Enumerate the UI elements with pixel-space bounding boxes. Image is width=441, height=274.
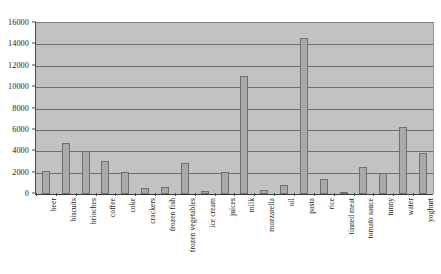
bar-slot [334,23,354,194]
bar [121,172,129,194]
x-axis-tick-mark [234,193,235,196]
x-axis-label-slot: frozen fish [155,198,175,274]
bar-slot [274,23,294,194]
y-axis-tick-label: 4000 [12,146,29,155]
y-axis-tick-label: 14000 [8,39,29,48]
y-axis: 0200040006000800010000120001400016000 [0,0,36,274]
bar-slot [393,23,413,194]
bar [419,153,427,194]
x-axis-label-slot: pasta [294,198,314,274]
x-axis-tick-mark [314,193,315,196]
plot-area [36,22,434,194]
x-axis-tick-mark [115,193,116,196]
x-axis-tick-slot [373,193,393,197]
x-axis-tick-mark [135,193,136,196]
y-axis-tick-label: 16000 [8,18,29,27]
bar-slot [215,23,235,194]
x-axis-label-slot: milk [234,198,254,274]
x-axis-tick-mark [354,193,355,196]
y-axis-tick-label: 6000 [12,124,29,133]
x-axis-tick-slot [314,193,334,197]
bar [42,171,50,195]
x-axis-label-slot: juices [215,198,235,274]
bar-slot [314,23,334,194]
x-axis-label-slot: water [393,198,413,274]
x-axis-label-slot: tinned meat [334,198,354,274]
x-axis-tick-mark [175,193,176,196]
x-axis-tick-slot [115,193,135,197]
x-axis-tick-mark [195,193,196,196]
bar-slot [56,23,76,194]
x-axis-tick-mark [413,193,414,196]
x-axis-tick-slot [96,193,116,197]
x-axis-label-slot: rice [314,198,334,274]
x-axis-tick-slot [175,193,195,197]
x-axis-label-slot: frozen vegetables [175,198,195,274]
x-axis-label-slot: ice cream [195,198,215,274]
x-axis-tick-slot [36,193,56,197]
x-axis-tick-mark [76,193,77,196]
bar [320,179,328,194]
y-axis-tick-label: 8000 [12,103,29,112]
x-axis-tick-slot [155,193,175,197]
x-axis-tick-mark [96,193,97,196]
bar [181,163,189,194]
x-axis-tick-mark [155,193,156,196]
x-axis-label-slot: coke [115,198,135,274]
bar-slot [234,23,254,194]
bar [399,127,407,194]
y-axis-tick-label: 0 [25,189,29,198]
x-axis-tick-mark [393,193,394,196]
bar-slot [175,23,195,194]
bar-slot [254,23,274,194]
bar-chart-figure: 0200040006000800010000120001400016000 be… [0,0,441,274]
x-axis-label-slot: brioches [76,198,96,274]
bar-slot [354,23,374,194]
x-axis-tick-slot [413,193,433,197]
x-axis-label-slot: biscuits [56,198,76,274]
x-axis-tick-slot [76,193,96,197]
y-axis-tick-label: 12000 [8,60,29,69]
x-axis-tick-mark [373,193,374,196]
bar-slot [135,23,155,194]
x-axis-tick-mark [56,193,57,196]
bar-slot [373,23,393,194]
bar [300,38,308,194]
bar [82,151,90,194]
bar-slot [76,23,96,194]
x-axis-label-slot: yoghurt [413,198,433,274]
x-axis-tick-slot [215,193,235,197]
x-axis-labels: beerbiscuitsbriochescoffeecokecrackersfr… [36,198,433,274]
x-axis-tick-label: yoghurt [426,198,435,222]
x-axis-tick-slot [135,193,155,197]
x-axis-tick-slot [56,193,76,197]
bar [379,173,387,194]
x-axis-tick-slot [393,193,413,197]
x-axis-tick-slot [274,193,294,197]
y-axis-line [35,22,36,195]
bar-slot [195,23,215,194]
x-axis-label-slot: mozzarella [254,198,274,274]
bar [221,172,229,194]
x-axis-label-slot: tomato sauce [354,198,374,274]
x-axis-label-slot: oil [274,198,294,274]
bar-slot [36,23,56,194]
bar [62,143,70,194]
bar-slot [155,23,175,194]
x-axis-label-slot: tunny [373,198,393,274]
x-axis-tick-slot [254,193,274,197]
x-axis-tick-mark [36,193,37,196]
bar-slot [413,23,433,194]
x-axis-tick-mark [334,193,335,196]
x-axis-tick-slot [334,193,354,197]
x-axis-tick-slot [195,193,215,197]
x-axis-label-slot: beer [36,198,56,274]
x-axis-label-slot: coffee [96,198,116,274]
bar-slot [115,23,135,194]
y-axis-tick-label: 10000 [8,82,29,91]
bar [240,76,248,194]
bar [359,167,367,194]
bar-slot [96,23,116,194]
x-axis-tick-slot [354,193,374,197]
x-axis-tick-slot [294,193,314,197]
